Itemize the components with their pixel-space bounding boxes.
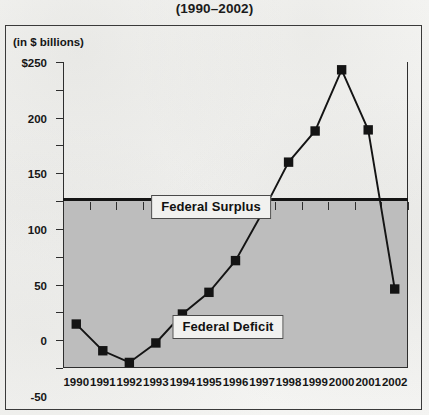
y-tick-mark: -200	[56, 312, 63, 313]
y-tick-label: $250	[21, 57, 47, 69]
data-point-marker	[284, 157, 293, 166]
y-tick-mark: 0	[56, 201, 63, 202]
y-tick-label: 200	[28, 113, 47, 125]
data-point-marker	[151, 338, 160, 347]
x-tick-label: 2002	[382, 376, 408, 388]
data-point-marker	[204, 288, 213, 297]
y-tick-mark: 50	[56, 173, 63, 174]
data-point-marker	[337, 65, 346, 74]
y-tick-mark: 100	[56, 145, 63, 146]
y-tick-label: 50	[34, 280, 47, 292]
y-tick-mark: -50	[56, 229, 63, 230]
x-tick-label: 1990	[63, 376, 89, 388]
x-tick-label: 1992	[117, 376, 143, 388]
y-tick-label: 100	[28, 224, 47, 236]
data-point-marker	[72, 319, 81, 328]
y-tick-label: -50	[30, 391, 47, 403]
x-tick-label: 1998	[276, 376, 302, 388]
data-point-marker	[98, 346, 107, 355]
x-tick-label: 2001	[355, 376, 381, 388]
data-point-marker	[390, 284, 399, 293]
y-tick-label: 0	[41, 335, 47, 347]
x-tick-mark	[408, 202, 409, 210]
chart-title: (1990–2002)	[0, 1, 429, 16]
x-tick-label: 1995	[196, 376, 222, 388]
y-tick-mark: $250	[56, 62, 63, 63]
x-tick-label: 1997	[249, 376, 275, 388]
federal-surplus-label: Federal Surplus	[151, 195, 271, 219]
x-tick-label: 1999	[302, 376, 328, 388]
federal-deficit-label: Federal Deficit	[172, 315, 283, 339]
data-point-marker	[231, 256, 240, 265]
data-point-marker	[125, 358, 134, 367]
y-axis-unit-label: (in $ billions)	[13, 36, 84, 48]
y-tick-mark: 150	[56, 118, 63, 119]
x-tick-label: 1996	[223, 376, 249, 388]
y-tick-label: 150	[28, 168, 47, 180]
x-tick-label: 1993	[143, 376, 169, 388]
x-tick-label: 1994	[170, 376, 196, 388]
x-tick-label: 2000	[329, 376, 355, 388]
y-tick-mark: 200	[56, 90, 63, 91]
y-tick-mark: -150	[56, 285, 63, 286]
y-tick-mark: -100	[56, 257, 63, 258]
plot-area: $250200150100500-50-100-150-200-250-300 …	[63, 62, 408, 368]
data-point-marker	[310, 126, 319, 135]
y-tick-mark: -300	[56, 368, 63, 369]
data-point-marker	[363, 125, 372, 134]
y-tick-mark: -250	[56, 340, 63, 341]
x-tick-label: 1991	[90, 376, 116, 388]
